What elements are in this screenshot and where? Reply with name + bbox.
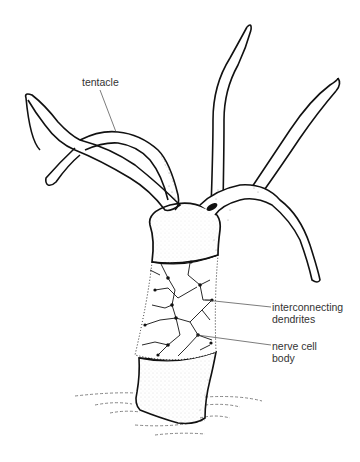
hydra-diagram: tentacle interconnecting dendrites nerve… <box>0 0 360 462</box>
hydra-illustration <box>0 0 360 462</box>
label-nerve-line-2: body <box>272 352 317 364</box>
label-dendrites-line-2: dendrites <box>272 313 343 325</box>
leader-tentacle <box>100 90 116 132</box>
hypostome <box>150 203 221 263</box>
label-interconnecting-dendrites: interconnecting dendrites <box>272 301 343 325</box>
label-tentacle-text: tentacle <box>82 76 119 88</box>
label-nerve-line-1: nerve cell <box>272 340 317 352</box>
tentacle-arch <box>80 132 179 210</box>
label-dendrites-line-1: interconnecting <box>272 301 343 313</box>
label-tentacle: tentacle <box>82 76 119 88</box>
tentacle-left <box>26 94 180 210</box>
label-nerve-cell-body: nerve cell body <box>272 340 317 364</box>
tentacle-middle <box>212 24 246 210</box>
basal-disc <box>136 352 216 423</box>
